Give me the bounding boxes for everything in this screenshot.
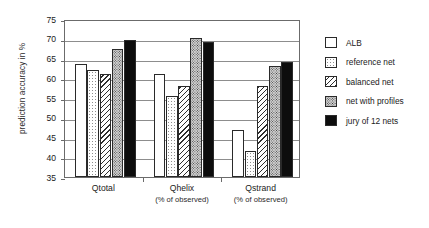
y-tick-label: 40 xyxy=(30,153,56,163)
x-group-label-qstrand: Qstrand(% of observed) xyxy=(201,183,321,205)
x-separator-tick xyxy=(143,178,144,182)
legend-item-balanced-net: balanced net xyxy=(325,72,429,92)
x-group-name: Qhelix xyxy=(170,183,194,193)
y-tick-label: 65 xyxy=(30,54,56,64)
bar-chart-figure: prediction accuracy in % 354045505560657… xyxy=(0,0,429,228)
y-tick-label: 45 xyxy=(30,133,56,143)
x-group-name: Qstrand xyxy=(245,183,276,193)
bar-qhelix-alb xyxy=(154,74,166,177)
legend-swatch xyxy=(325,96,337,107)
legend-item-alb: ALB xyxy=(325,33,429,53)
bar-qstrand-jury-of-12-nets xyxy=(281,62,293,177)
bar-qstrand-alb xyxy=(232,130,244,177)
legend-label: net with profiles xyxy=(346,96,404,106)
x-group-name: Qtotal xyxy=(92,183,115,193)
y-axis-title: prediction accuracy in % xyxy=(18,9,27,169)
y-tick-label: 75 xyxy=(30,15,56,25)
legend-item-jury-of-12-nets: jury of 12 nets xyxy=(325,111,429,131)
y-tick-label: 70 xyxy=(30,34,56,44)
bar-qhelix-net-with-profiles xyxy=(190,38,202,177)
y-tick-label: 55 xyxy=(30,94,56,104)
bar-qtotal-alb xyxy=(75,64,87,177)
bar-qtotal-jury-of-12-nets xyxy=(124,40,136,177)
legend-label: balanced net xyxy=(346,77,394,87)
y-tick-label: 60 xyxy=(30,74,56,84)
plot-area xyxy=(64,20,300,178)
legend-swatch xyxy=(325,57,337,68)
bar-qtotal-net-with-profiles xyxy=(112,49,124,177)
legend-swatch xyxy=(325,115,337,126)
bar-qhelix-balanced-net xyxy=(178,86,190,177)
bar-series-container xyxy=(65,21,299,177)
legend-item-reference-net: reference net xyxy=(325,53,429,73)
y-tick-mark xyxy=(61,179,65,180)
legend-label: jury of 12 nets xyxy=(346,116,398,126)
bar-qtotal-reference-net xyxy=(87,70,99,177)
chart-legend: ALBreference netbalanced netnet with pro… xyxy=(325,33,429,131)
bar-qstrand-net-with-profiles xyxy=(269,66,281,177)
x-group-sublabel: (% of observed) xyxy=(201,194,321,205)
bar-qhelix-jury-of-12-nets xyxy=(203,42,215,177)
legend-label: ALB xyxy=(346,38,362,48)
y-tick-label: 50 xyxy=(30,113,56,123)
legend-swatch xyxy=(325,37,337,48)
bar-qstrand-reference-net xyxy=(245,151,257,177)
bar-qhelix-reference-net xyxy=(166,96,178,177)
bar-qstrand-balanced-net xyxy=(257,86,269,177)
y-tick-label: 35 xyxy=(30,173,56,183)
x-separator-tick xyxy=(221,178,222,182)
legend-swatch xyxy=(325,76,337,87)
bar-qtotal-balanced-net xyxy=(100,74,112,177)
legend-item-net-with-profiles: net with profiles xyxy=(325,92,429,112)
legend-label: reference net xyxy=(346,57,395,67)
